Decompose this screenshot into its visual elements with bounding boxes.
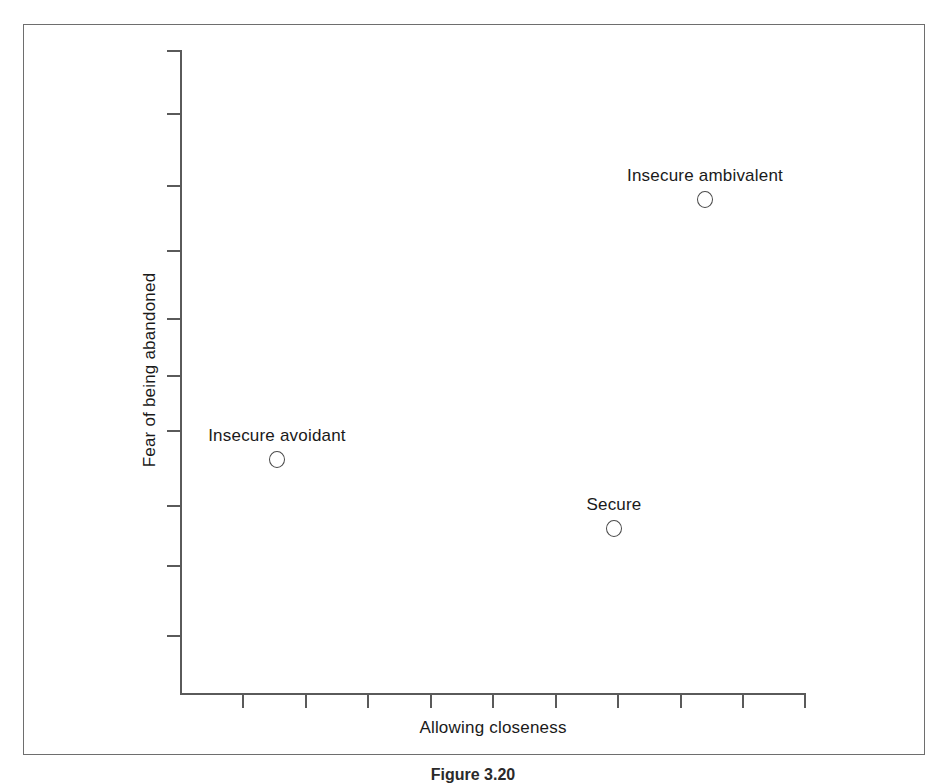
y-axis-tick [167, 635, 180, 637]
x-axis-tick [680, 695, 682, 708]
y-axis-tick [167, 318, 180, 320]
x-axis-tick [242, 695, 244, 708]
data-point-label-insecure-avoidant: Insecure avoidant [208, 426, 346, 446]
x-axis-title: Allowing closeness [180, 718, 806, 738]
x-axis-tick [617, 695, 619, 708]
y-axis-tick [167, 185, 180, 187]
x-axis-tick [742, 695, 744, 708]
x-axis-tick [804, 695, 806, 708]
y-axis-title: Fear of being abandoned [140, 273, 160, 468]
x-axis-tick [555, 695, 557, 708]
y-axis-tick [167, 505, 180, 507]
data-point-secure[interactable] [606, 520, 622, 537]
y-axis-tick [167, 250, 180, 252]
y-axis-tick [167, 113, 180, 115]
data-point-insecure-avoidant[interactable] [269, 451, 285, 468]
y-axis-tick [167, 565, 180, 567]
x-axis-tick [430, 695, 432, 708]
figure-caption: Figure 3.20 [0, 766, 946, 784]
y-axis-line [180, 50, 182, 695]
data-point-label-insecure-ambivalent: Insecure ambivalent [627, 166, 783, 186]
x-axis-tick [492, 695, 494, 708]
y-axis-tick [167, 375, 180, 377]
data-point-label-secure: Secure [586, 495, 641, 515]
data-point-insecure-ambivalent[interactable] [697, 191, 713, 208]
x-axis-tick [305, 695, 307, 708]
y-axis-tick [167, 50, 180, 52]
x-axis-tick [367, 695, 369, 708]
y-axis-tick [167, 430, 180, 432]
